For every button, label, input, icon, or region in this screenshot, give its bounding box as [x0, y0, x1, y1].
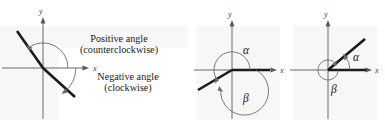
negative-angle-callout-line2: (clockwise) [68, 82, 188, 93]
y-axis-arrowhead [230, 20, 235, 27]
angle-diagram-figure: y x Positive angle (counterclockwise) Ne… [0, 0, 385, 130]
negative-angle-callout: Negative angle (clockwise) [68, 71, 188, 94]
x-axis-label: x [375, 66, 379, 75]
positive-angle-callout-line1: Positive angle [52, 33, 186, 44]
y-axis-label: y [39, 7, 43, 16]
terminal-ray [328, 39, 365, 70]
panel-coterminal-pair-one: y x α β [190, 0, 287, 130]
x-axis-arrowhead [83, 66, 90, 71]
panel-definition: y x Positive angle (counterclockwise) Ne… [0, 0, 190, 130]
positive-angle-callout: Positive angle (counterclockwise) [52, 33, 186, 56]
panel-coterminal-one-svg [190, 0, 287, 130]
panel-coterminal-two-svg [287, 0, 385, 130]
x-axis-label: x [280, 66, 284, 75]
alpha-label: α [353, 52, 359, 64]
beta-label: β [243, 93, 249, 105]
x-axis-arrowhead [271, 68, 278, 73]
positive-angle-callout-line2: (counterclockwise) [52, 44, 186, 55]
beta-label: β [331, 84, 337, 96]
negative-angle-callout-line1: Negative angle [68, 71, 188, 82]
alpha-label: α [243, 45, 249, 57]
y-axis-arrowhead [41, 17, 46, 24]
panel-coterminal-pair-two: y x α β [287, 0, 385, 130]
y-axis-arrowhead [326, 20, 331, 27]
y-axis-label: y [228, 10, 232, 19]
beta-arrowhead [218, 86, 224, 92]
x-axis-arrowhead [366, 68, 373, 73]
y-axis-label: y [324, 10, 328, 19]
